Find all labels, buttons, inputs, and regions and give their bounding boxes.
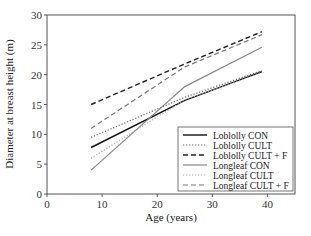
y-tick-label: 10 [31,128,43,140]
x-axis-ticks: 010203040 [44,194,273,210]
legend-label: Loblolly CON [213,131,268,141]
x-tick-label: 40 [262,198,274,210]
x-tick-label: 30 [207,198,219,210]
legend-label: Longleaf CULT + F [213,181,289,191]
y-tick-label: 30 [31,9,43,21]
y-axis-label: Diameter at breast height (m) [3,39,16,169]
x-tick-label: 0 [44,198,50,210]
x-axis-label: Age (years) [145,211,197,224]
legend-label: Longleaf CON [213,161,270,171]
legend: Loblolly CONLoblolly CULTLoblolly CULT +… [178,127,293,191]
y-axis-ticks: 051015202530 [31,9,47,200]
legend-label: Loblolly CULT + F [213,151,287,161]
x-tick-label: 10 [97,198,109,210]
y-tick-label: 15 [31,99,43,111]
y-tick-label: 5 [37,158,43,170]
y-tick-label: 0 [37,188,43,200]
y-tick-label: 20 [31,69,43,81]
x-tick-label: 20 [152,198,164,210]
chart: 051015202530 010203040 Age (years) Diame… [0,0,311,236]
y-tick-label: 25 [31,39,43,51]
legend-label: Loblolly CULT [213,141,272,151]
legend-label: Longleaf CULT [213,171,274,181]
